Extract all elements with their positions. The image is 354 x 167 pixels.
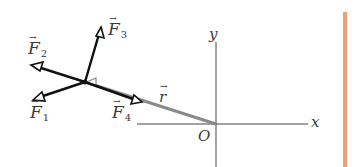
- label-x-axis: x: [311, 115, 319, 130]
- force-f2: [38, 67, 85, 82]
- label-origin: O: [198, 129, 210, 144]
- vector-arrow-icon: →: [31, 97, 39, 106]
- label-f3-sub: 3: [121, 29, 127, 40]
- label-f2-sub: 2: [41, 48, 47, 59]
- force-f1: [40, 82, 85, 97]
- force-f3: [85, 34, 99, 82]
- label-f3: →F3: [108, 21, 127, 40]
- f3-arrowhead-icon: [96, 27, 104, 38]
- application-point: [83, 80, 88, 85]
- force-f4: [85, 82, 133, 99]
- f2-arrowhead-icon: [31, 62, 43, 71]
- vector-arrow-icon: →: [109, 14, 117, 23]
- label-f4-sub: 4: [125, 112, 131, 123]
- diagram-canvas: [0, 0, 354, 167]
- label-y-axis: y: [209, 27, 217, 42]
- label-f4: →F4: [112, 104, 131, 123]
- accent-bar: [343, 12, 347, 167]
- label-r: →r: [159, 90, 166, 105]
- label-f2: →F2: [28, 40, 47, 59]
- label-f1: →F1: [30, 104, 49, 123]
- vector-arrow-icon: →: [160, 82, 168, 91]
- vector-arrow-icon: →: [113, 97, 121, 106]
- vector-arrow-icon: →: [29, 33, 37, 42]
- label-f1-sub: 1: [43, 112, 49, 123]
